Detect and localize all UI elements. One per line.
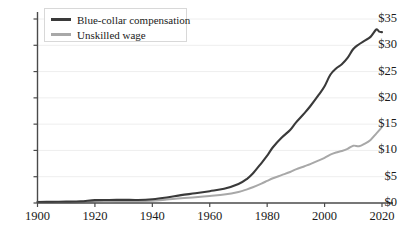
x-tick-label: 2000 <box>302 209 348 224</box>
series-line-blue-collar-compensation <box>38 29 383 202</box>
chart-caption <box>2 224 395 233</box>
legend-swatch-unskilled-wage <box>51 33 71 36</box>
legend-label-blue-collar-compensation: Blue-collar compensation <box>77 14 190 26</box>
y-tick-label: $35 <box>364 11 397 26</box>
x-tick-label: 1980 <box>244 209 290 224</box>
gridlines-group <box>38 19 394 177</box>
y-tick-label: $30 <box>364 37 397 52</box>
y-tick-label: $25 <box>364 64 397 79</box>
x-tick-label: 1920 <box>72 209 118 224</box>
y-tick-label: $20 <box>364 90 397 105</box>
x-tick-label: 2020 <box>359 209 402 224</box>
y-tick-label: $0 <box>364 195 397 210</box>
legend-entry-unskilled-wage: Unskilled wage <box>51 28 180 41</box>
y-tick-label: $5 <box>364 169 397 184</box>
x-tick-label: 1940 <box>129 209 175 224</box>
axis-ticks-group <box>34 19 383 207</box>
x-tick-label: 1960 <box>187 209 233 224</box>
legend-entry-blue-collar-compensation: Blue-collar compensation <box>51 13 180 26</box>
legend-swatch-blue-collar-compensation <box>51 18 71 21</box>
x-tick-label: 1900 <box>15 209 61 224</box>
y-tick-label: $15 <box>364 116 397 131</box>
y-tick-label: $10 <box>364 142 397 157</box>
legend-label-unskilled-wage: Unskilled wage <box>77 29 146 41</box>
chart-legend: Blue-collar compensation Unskilled wage <box>44 8 187 42</box>
